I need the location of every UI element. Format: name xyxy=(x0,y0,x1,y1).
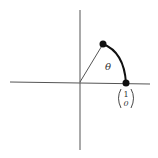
vector-top: 1 xyxy=(123,90,128,99)
vector-bottom: 0 xyxy=(123,99,128,108)
rotation-diagram: θ 1 0 xyxy=(0,0,158,158)
rotated-point xyxy=(100,41,107,48)
unit-point xyxy=(123,80,130,87)
left-paren xyxy=(119,89,122,108)
vector-label: 1 0 xyxy=(119,89,134,108)
theta-label: θ xyxy=(105,61,111,72)
radius-line xyxy=(80,44,103,82)
right-paren xyxy=(131,89,134,108)
